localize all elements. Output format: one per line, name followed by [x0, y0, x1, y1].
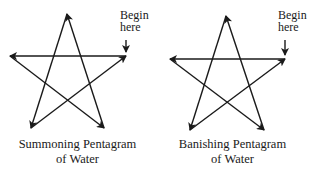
begin-label-line2: here — [278, 21, 307, 33]
summoning-pentagram-figure: Begin here Summoning Pentagram of Water — [0, 0, 155, 175]
stroke-bottom-left-to-right — [190, 59, 285, 130]
begin-here-label: Begin here — [120, 9, 149, 33]
caption-line2: of Water — [155, 152, 310, 167]
stroke-top-to-bottom-left — [190, 16, 226, 130]
stroke-left-to-bottom-right — [10, 56, 104, 128]
stroke-bottom-left-to-right — [31, 56, 126, 128]
caption-line1: Banishing Pentagram — [155, 137, 310, 152]
begin-here-label: Begin here — [278, 9, 307, 33]
banishing-pentagram-caption: Banishing Pentagram of Water — [155, 137, 310, 167]
stroke-bottom-right-to-top — [67, 14, 104, 128]
caption-line2: of Water — [0, 152, 155, 167]
caption-line1: Summoning Pentagram — [0, 137, 155, 152]
begin-label-line2: here — [120, 21, 149, 33]
stroke-left-to-bottom-right — [170, 59, 264, 130]
stroke-bottom-right-to-top — [226, 16, 264, 130]
summoning-pentagram-caption: Summoning Pentagram of Water — [0, 137, 155, 167]
banishing-pentagram-figure: Begin here Banishing Pentagram of Water — [155, 0, 310, 175]
stroke-top-to-bottom-left — [31, 14, 67, 128]
